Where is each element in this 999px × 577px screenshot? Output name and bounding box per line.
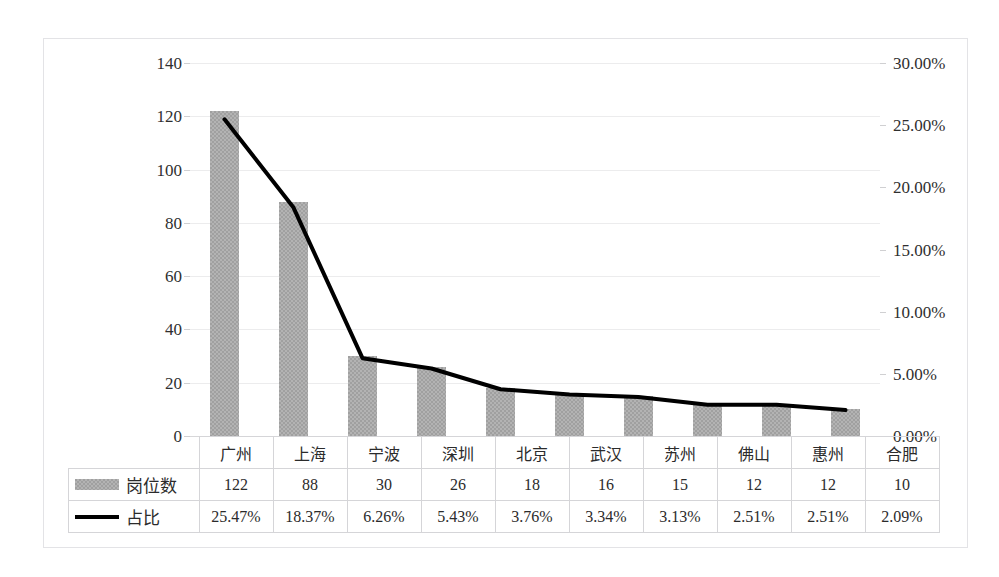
table-cell: 3.34% <box>569 501 643 533</box>
category-header-cell: 北京 <box>495 437 569 469</box>
left-axis-tick-label: 60 <box>165 268 182 285</box>
table-cell: 2.51% <box>717 501 791 533</box>
table-cell: 12 <box>717 469 791 501</box>
right-axis-tick-label: 10.00% <box>893 304 945 321</box>
category-header-cell: 佛山 <box>717 437 791 469</box>
left-axis-tick-label: 100 <box>157 162 183 179</box>
table-cell: 3.13% <box>643 501 717 533</box>
table-cell: 3.76% <box>495 501 569 533</box>
table-cell: 30 <box>347 469 421 501</box>
right-axis-tick-label: 15.00% <box>893 242 945 259</box>
table-cell: 25.47% <box>199 501 273 533</box>
table-cell: 26 <box>421 469 495 501</box>
category-header-cell: 合肥 <box>865 437 939 469</box>
legend-bar-swatch-icon <box>75 479 119 490</box>
category-header-cell: 上海 <box>273 437 347 469</box>
table-cell: 10 <box>865 469 939 501</box>
table-cell: 2.09% <box>865 501 939 533</box>
table-cell: 6.26% <box>347 501 421 533</box>
category-header-cell: 宁波 <box>347 437 421 469</box>
category-header-cell: 苏州 <box>643 437 717 469</box>
right-axis-tick-label: 30.00% <box>893 55 945 72</box>
legend-label: 岗位数 <box>126 472 177 497</box>
left-axis-tick-label: 20 <box>165 375 182 392</box>
left-axis-tick-label: 40 <box>165 321 182 338</box>
line-series-占比 <box>190 63 880 436</box>
table-row: 占比25.47%18.37%6.26%5.43%3.76%3.34%3.13%2… <box>69 501 940 533</box>
table-row: 岗位数122883026181615121210 <box>69 469 940 501</box>
line-path <box>225 119 846 410</box>
left-axis-tick-label: 80 <box>165 215 182 232</box>
table-cell: 15 <box>643 469 717 501</box>
table-cell: 16 <box>569 469 643 501</box>
left-axis-tick-label: 120 <box>157 108 183 125</box>
table-corner-cell <box>69 437 200 469</box>
legend-line-swatch-icon <box>75 515 119 519</box>
table-cell: 122 <box>199 469 273 501</box>
right-axis-tick-label: 5.00% <box>893 366 937 383</box>
table-row-categories: 广州上海宁波深圳北京武汉苏州佛山惠州合肥 <box>69 437 940 469</box>
category-header-cell: 武汉 <box>569 437 643 469</box>
legend-label: 占比 <box>126 504 160 529</box>
category-header-cell: 深圳 <box>421 437 495 469</box>
right-axis-tick-label: 20.00% <box>893 179 945 196</box>
table-cell: 18.37% <box>273 501 347 533</box>
table-cell: 5.43% <box>421 501 495 533</box>
right-axis-tick-label: 25.00% <box>893 117 945 134</box>
table-cell: 12 <box>791 469 865 501</box>
table-cell: 88 <box>273 469 347 501</box>
category-header-cell: 惠州 <box>791 437 865 469</box>
category-header-cell: 广州 <box>199 437 273 469</box>
legend-cell: 岗位数 <box>69 469 200 501</box>
plot-area <box>190 63 880 436</box>
table-cell: 18 <box>495 469 569 501</box>
table-cell: 2.51% <box>791 501 865 533</box>
data-table: 广州上海宁波深圳北京武汉苏州佛山惠州合肥岗位数12288302618161512… <box>68 436 940 533</box>
left-axis-tick-label: 140 <box>157 55 183 72</box>
legend-cell: 占比 <box>69 501 200 533</box>
